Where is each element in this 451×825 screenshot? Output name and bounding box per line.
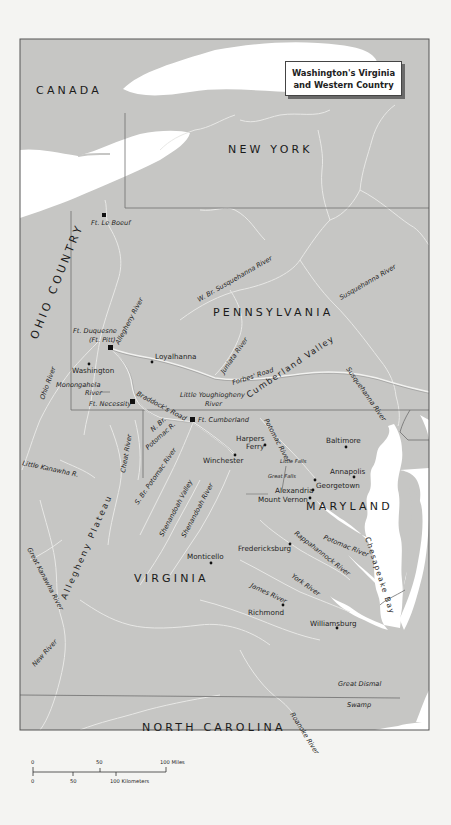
label-ft-duquesne: Ft. Duquesne <box>73 327 117 335</box>
scale-km-100: 100 Kilometers <box>110 778 150 784</box>
label-pennsylvania: PENNSYLVANIA <box>213 306 333 319</box>
label-ferry: Ferry <box>246 442 265 451</box>
label-ft-necessity: Ft. Necessity <box>89 400 132 408</box>
scale-km-50: 50 <box>70 778 77 784</box>
scale-miles-100: 100 Miles <box>160 759 185 765</box>
scale-km-0: 0 <box>31 778 34 784</box>
label-great-falls: Great Falls <box>268 473 296 479</box>
map-title-line-1: Washington's Virginia <box>292 67 395 79</box>
label-maryland: MARYLAND <box>306 500 393 513</box>
label-richmond: Richmond <box>248 608 284 617</box>
scale-miles-50: 50 <box>96 759 103 765</box>
label-little-youghiogheny-river: River <box>205 400 223 408</box>
scale-miles-0: 0 <box>31 759 34 765</box>
label-canada: CANADA <box>36 84 102 97</box>
label-little-youghiogheny: Little Youghiogheny <box>180 391 245 399</box>
label-baltimore: Baltimore <box>326 436 361 445</box>
map-title-line-2: and Western Country <box>293 79 393 91</box>
label-north-carolina: NORTH CAROLINA <box>142 721 286 734</box>
map-figure: CANADA NEW YORK PENNSYLVANIA OHIO COUNTR… <box>0 0 451 825</box>
map-title: Washington's Virginia and Western Countr… <box>285 61 402 96</box>
label-washington: Washington <box>72 366 114 375</box>
label-williamsburg: Williamsburg <box>310 619 357 628</box>
label-ft-le-boeuf: Ft. Le Boeuf <box>91 219 132 227</box>
label-great-dismal: Great Dismal <box>338 680 381 688</box>
label-monongahela-river: River <box>85 389 103 397</box>
label-winchester: Winchester <box>203 456 243 465</box>
label-new-york: NEW YORK <box>228 143 313 156</box>
label-ft-pitt: (Ft. Pitt) <box>89 336 116 344</box>
label-monticello: Monticello <box>187 552 224 561</box>
label-swamp: Swamp <box>347 701 371 709</box>
label-mount-vernon: Mount Vernon <box>258 495 308 504</box>
label-ft-cumberland: Ft. Cumberland <box>198 416 250 424</box>
label-annapolis: Annapolis <box>330 467 365 476</box>
label-loyalhanna: Loyalhanna <box>155 352 196 361</box>
fort-marker-cumberland <box>190 417 195 422</box>
label-monongahela: Monongahela <box>56 381 100 389</box>
label-alexandria: Alexandria <box>275 486 313 495</box>
fort-marker-duquesne <box>108 345 113 350</box>
label-virginia: VIRGINIA <box>134 572 209 585</box>
label-fredericksburg: Fredericksburg <box>238 544 291 553</box>
fort-marker-le-boeuf <box>102 213 106 217</box>
label-georgetown: Georgetown <box>316 481 360 490</box>
